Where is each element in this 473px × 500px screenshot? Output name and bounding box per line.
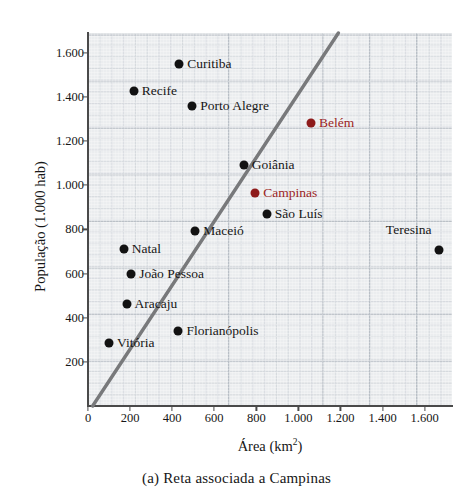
- y-tick-mark: [82, 185, 88, 186]
- data-point: [174, 327, 183, 336]
- data-point: [129, 87, 138, 96]
- y-tick-label: 1.600: [56, 45, 84, 60]
- data-point: [119, 245, 128, 254]
- data-point-label: João Pessoa: [139, 267, 204, 281]
- data-point-label: Curitiba: [187, 58, 231, 72]
- data-point-label: Recife: [142, 85, 177, 99]
- x-axis-line: [87, 405, 453, 407]
- x-tick-mark: [424, 405, 425, 411]
- data-point-label: Goiânia: [252, 159, 295, 173]
- data-point: [175, 60, 184, 69]
- data-point-label: Natal: [132, 243, 161, 257]
- y-tick-mark: [82, 52, 88, 53]
- x-tick-mark: [382, 405, 383, 411]
- y-axis-line: [87, 32, 89, 407]
- y-axis-ticks: 2004006008001.0001.2001.4001.600: [18, 0, 84, 500]
- y-tick-mark: [82, 141, 88, 142]
- x-tick-label: 600: [205, 411, 224, 426]
- x-tick-label: 400: [163, 411, 182, 426]
- x-tick-mark: [214, 405, 215, 411]
- x-tick-label: 1.400: [369, 411, 397, 426]
- x-axis-title-tail: ): [298, 438, 303, 454]
- data-point: [307, 119, 316, 128]
- x-axis-title: Área (km2): [88, 437, 452, 455]
- x-tick-mark: [256, 405, 257, 411]
- x-tick-label: 0: [85, 411, 91, 426]
- data-point-label: Vitória: [117, 336, 154, 350]
- data-point: [262, 209, 271, 218]
- y-tick-mark: [82, 273, 88, 274]
- x-tick-mark: [340, 405, 341, 411]
- data-point-label: Florianópolis: [186, 325, 258, 339]
- data-point: [435, 246, 444, 255]
- data-point: [239, 161, 248, 170]
- x-tick-mark: [129, 405, 130, 411]
- data-point: [127, 269, 136, 278]
- y-tick-mark: [82, 361, 88, 362]
- data-point-label: Teresina: [386, 224, 432, 238]
- x-tick-label: 1.200: [326, 411, 354, 426]
- x-tick-mark: [298, 405, 299, 411]
- data-point-label: Aracaju: [135, 297, 178, 311]
- y-axis-title: População (1.000 hab): [32, 102, 49, 352]
- y-tick-mark: [82, 96, 88, 97]
- x-tick-mark: [172, 405, 173, 411]
- data-point-label: Maceió: [203, 224, 243, 238]
- x-tick-mark: [87, 405, 88, 411]
- data-point: [191, 226, 200, 235]
- y-tick-mark: [82, 317, 88, 318]
- y-tick-label: 1.000: [56, 178, 84, 193]
- x-axis-title-main: Área (km: [238, 438, 293, 454]
- y-tick-label: 1.200: [56, 134, 84, 149]
- figure-caption: (a) Reta associada a Campinas: [0, 470, 473, 487]
- data-point-label: Porto Alegre: [200, 99, 269, 113]
- data-point-label: Belém: [319, 117, 354, 131]
- x-tick-label: 200: [121, 411, 140, 426]
- data-point: [105, 339, 114, 348]
- x-tick-label: 1.600: [411, 411, 439, 426]
- y-tick-mark: [82, 229, 88, 230]
- data-point-label: São Luís: [275, 207, 323, 221]
- x-tick-label: 1.000: [284, 411, 312, 426]
- y-tick-label: 1.400: [56, 90, 84, 105]
- figure-container: 2004006008001.0001.2001.4001.600 0200400…: [0, 0, 473, 500]
- data-point: [188, 101, 197, 110]
- data-point-label: Campinas: [263, 186, 317, 200]
- data-point: [122, 300, 131, 309]
- x-tick-label: 800: [247, 411, 266, 426]
- data-point: [251, 189, 260, 198]
